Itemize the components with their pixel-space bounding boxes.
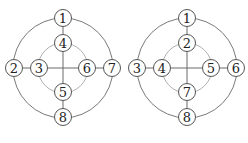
node-8: 8	[55, 109, 72, 126]
node-6: 6	[79, 60, 96, 77]
node-label: 2	[183, 36, 191, 51]
node-1: 1	[179, 10, 196, 27]
node-label: 3	[133, 61, 141, 76]
node-5: 5	[55, 84, 72, 101]
node-label: 1	[183, 11, 191, 26]
node-label: 6	[232, 61, 240, 76]
node-label: 7	[183, 85, 191, 100]
node-3: 3	[31, 60, 48, 77]
node-label: 8	[183, 110, 191, 125]
node-7: 7	[104, 60, 121, 77]
node-label: 4	[158, 61, 166, 76]
node-1: 1	[55, 10, 72, 27]
diagram-right: 12345678	[129, 10, 245, 126]
node-label: 1	[59, 11, 67, 26]
node-4: 4	[154, 60, 171, 77]
node-label: 7	[108, 61, 116, 76]
node-8: 8	[179, 109, 196, 126]
diagram-left: 12345678	[6, 10, 121, 126]
node-6: 6	[228, 60, 245, 77]
node-4: 4	[55, 35, 72, 52]
node-label: 6	[83, 61, 91, 76]
node-2: 2	[6, 60, 23, 77]
node-label: 3	[35, 61, 43, 76]
node-label: 4	[59, 36, 67, 51]
two-ring-graph-diagram: 1234567812345678	[0, 0, 248, 143]
node-label: 5	[59, 85, 67, 100]
node-5: 5	[203, 60, 220, 77]
node-label: 5	[207, 61, 215, 76]
node-label: 8	[59, 110, 67, 125]
node-7: 7	[179, 84, 196, 101]
node-label: 2	[10, 61, 18, 76]
node-3: 3	[129, 60, 146, 77]
node-2: 2	[179, 35, 196, 52]
